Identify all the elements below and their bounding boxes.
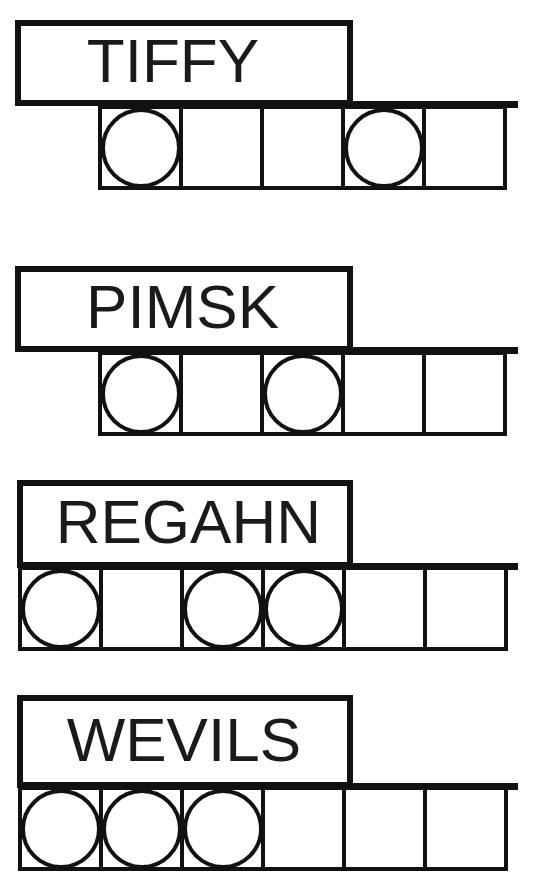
circle-marker-icon [264, 569, 344, 649]
answer-cell[interactable] [99, 566, 184, 651]
answer-cell[interactable] [341, 105, 426, 190]
answer-cell[interactable] [260, 351, 345, 436]
word-box[interactable]: PIMSK [15, 266, 353, 352]
circle-marker-icon [183, 789, 263, 869]
answer-cell[interactable] [180, 786, 265, 871]
answer-cell-row [18, 786, 508, 871]
circle-marker-icon [21, 569, 101, 649]
row-top-bar [351, 101, 518, 108]
word-label: TIFFY [87, 30, 347, 92]
answer-cell-row [98, 105, 507, 190]
answer-cell[interactable] [179, 105, 264, 190]
answer-cell[interactable] [179, 351, 264, 436]
answer-cell[interactable] [180, 566, 265, 651]
word-box[interactable]: TIFFY [15, 20, 353, 106]
word-label: WEVILS [67, 709, 347, 771]
word-label: PIMSK [86, 276, 347, 338]
worksheet-canvas: TIFFY PIMSK [0, 0, 540, 886]
row-top-bar [351, 783, 518, 790]
circle-marker-icon [102, 789, 182, 869]
answer-cell[interactable] [98, 351, 183, 436]
answer-cell-row [98, 351, 507, 436]
answer-cell[interactable] [423, 786, 508, 871]
answer-cell[interactable] [98, 105, 183, 190]
answer-cell[interactable] [422, 351, 507, 436]
row-top-bar [351, 563, 518, 570]
circle-marker-icon [101, 354, 181, 434]
answer-cell[interactable] [260, 105, 345, 190]
answer-cell[interactable] [261, 786, 346, 871]
answer-cell[interactable] [342, 786, 427, 871]
answer-cell[interactable] [422, 105, 507, 190]
row-top-bar [351, 347, 518, 354]
circle-marker-icon [263, 354, 343, 434]
answer-cell[interactable] [18, 786, 103, 871]
answer-cell[interactable] [341, 351, 426, 436]
word-box[interactable]: REGAHN [17, 480, 353, 568]
answer-cell[interactable] [99, 786, 184, 871]
word-label: REGAHN [56, 491, 347, 553]
answer-cell-row [18, 566, 508, 651]
answer-cell[interactable] [423, 566, 508, 651]
answer-cell[interactable] [342, 566, 427, 651]
answer-cell[interactable] [261, 566, 346, 651]
circle-marker-icon [101, 108, 181, 188]
circle-marker-icon [21, 789, 101, 869]
circle-marker-icon [183, 569, 263, 649]
circle-marker-icon [344, 108, 424, 188]
answer-cell[interactable] [18, 566, 103, 651]
word-box[interactable]: WEVILS [17, 695, 353, 788]
